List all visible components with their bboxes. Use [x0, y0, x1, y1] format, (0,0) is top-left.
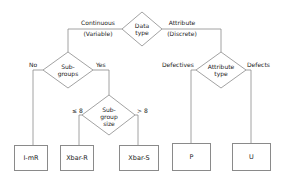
- subgroups-label: Sub- groups: [50, 61, 86, 79]
- gt-8-label: > 8: [137, 107, 148, 114]
- subgroup-size-line2: group: [100, 113, 117, 120]
- attribute-type-line2: type: [214, 70, 227, 77]
- chart-box-p: P: [172, 143, 211, 171]
- discrete-label: (Discrete): [164, 30, 200, 37]
- attribute-label: Attribute: [164, 19, 200, 26]
- data-type-line2: type: [135, 29, 148, 36]
- no-label: No: [29, 61, 37, 68]
- variable-label: (Variable): [78, 30, 118, 37]
- subgroup-size-line1: Sub-: [102, 106, 116, 113]
- data-type-line1: Data: [135, 22, 149, 29]
- le-8-label: ≤ 8: [72, 107, 83, 114]
- chart-box-imr: I-mR: [14, 145, 48, 171]
- defectives-label: Defectives: [162, 61, 194, 68]
- subgroups-line2: groups: [58, 70, 79, 77]
- chart-box-xbar-s: Xbar-S: [119, 145, 159, 171]
- subgroups-line1: Sub-: [61, 63, 75, 70]
- chart-box-u: U: [232, 143, 271, 171]
- subgroup-size-label: Sub- group size: [91, 104, 127, 128]
- attribute-type-label: Attribute type: [201, 61, 241, 79]
- subgroup-size-line3: size: [103, 120, 115, 127]
- continuous-label: Continuous: [78, 19, 118, 26]
- yes-label: Yes: [96, 61, 106, 68]
- chart-box-xbar-r: Xbar-R: [60, 145, 94, 171]
- data-type-label: Data type: [127, 20, 157, 38]
- attribute-type-line1: Attribute: [208, 63, 235, 70]
- defects-label: Defects: [247, 61, 270, 68]
